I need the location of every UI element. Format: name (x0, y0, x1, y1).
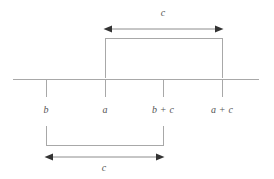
upper-bracket-label: c (161, 8, 166, 18)
tick-label-b-plus-c: b + c (152, 105, 174, 115)
tick-label-a: a (102, 105, 107, 115)
lower-left-arrowhead (45, 154, 54, 161)
diagram-canvas (0, 0, 274, 179)
upper-bracket-path (105, 38, 222, 78)
upper-left-arrowhead (104, 26, 113, 33)
number-line-figure: b a b + c a + c c c (0, 0, 274, 179)
tick-label-b: b (43, 105, 48, 115)
upper-right-arrowhead (215, 26, 224, 33)
lower-bracket-path (46, 126, 163, 145)
lower-bracket-label: c (102, 163, 107, 173)
lower-right-arrowhead (156, 154, 165, 161)
tick-label-a-plus-c: a + c (211, 105, 233, 115)
